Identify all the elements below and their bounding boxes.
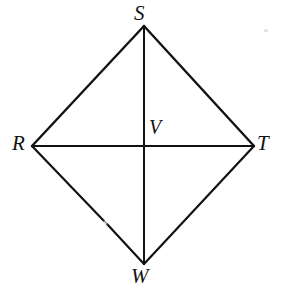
vertex-label-s: S — [134, 3, 145, 24]
edge-wr-upper — [107, 224, 144, 264]
rhombus-diagram-svg — [0, 0, 285, 300]
edge-wr-lower — [32, 146, 104, 221]
vertex-label-w: W — [131, 266, 149, 287]
vertex-label-t: T — [257, 133, 269, 154]
edge-rs — [32, 26, 144, 146]
vertex-label-r: R — [12, 133, 25, 154]
vertex-label-v: V — [149, 117, 161, 137]
edge-tw — [144, 146, 254, 264]
geometry-figure-canvas: S R T W V — [0, 0, 285, 300]
edge-wr-bridge — [104, 221, 107, 224]
scan-artifact-speck — [264, 29, 268, 32]
